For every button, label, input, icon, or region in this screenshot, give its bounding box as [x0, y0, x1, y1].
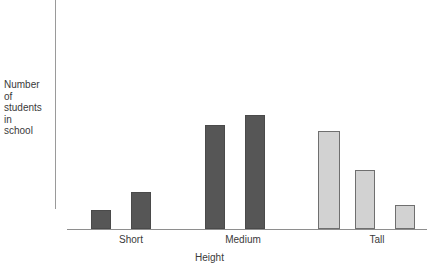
x-axis-line: [67, 229, 427, 230]
x-tick-label-tall: Tall: [337, 234, 417, 246]
bar-tall-3: [395, 205, 415, 229]
bar-medium-2: [245, 115, 265, 229]
bar-chart-figure: Number of students in school Short Mediu…: [0, 0, 445, 277]
x-tick-label-medium: Medium: [203, 234, 283, 246]
bar-short-1: [91, 210, 111, 229]
plot-area: [0, 0, 445, 229]
bar-tall-2: [355, 170, 375, 229]
x-axis-title-wrap: Height: [0, 252, 445, 264]
bar-tall-1: [318, 131, 340, 229]
bar-short-2: [131, 192, 151, 229]
x-tick-label-short: Short: [91, 234, 171, 246]
bar-medium-1: [205, 125, 225, 229]
x-axis-title: Height: [195, 252, 224, 263]
